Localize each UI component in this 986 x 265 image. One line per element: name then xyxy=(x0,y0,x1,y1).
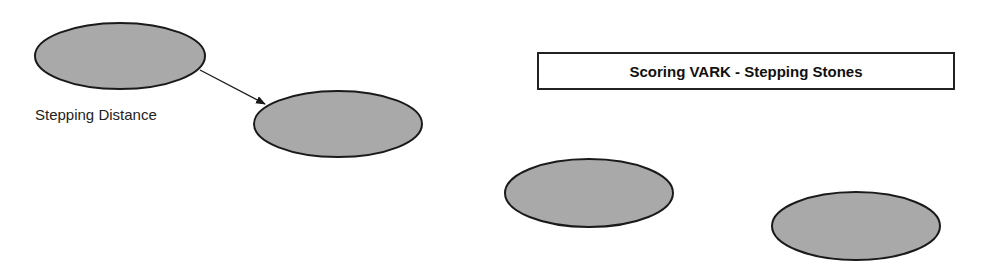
diagram-title-box: Scoring VARK - Stepping Stones xyxy=(537,52,955,90)
stepping-stone-3 xyxy=(505,159,673,227)
stepping-distance-arrow xyxy=(200,70,265,104)
stepping-stone-1 xyxy=(35,23,205,89)
stepping-stone-4 xyxy=(772,192,940,260)
stepping-distance-label: Stepping Distance xyxy=(35,106,157,123)
stepping-stones-diagram xyxy=(0,0,986,265)
stepping-stone-2 xyxy=(254,91,422,157)
diagram-title: Scoring VARK - Stepping Stones xyxy=(629,63,862,80)
